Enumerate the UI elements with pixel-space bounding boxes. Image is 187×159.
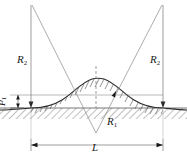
label-r2-left: R2	[17, 54, 27, 66]
label-r1: R1	[107, 116, 117, 128]
label-r2-right: R2	[150, 54, 160, 66]
label-l: L	[92, 142, 98, 153]
ground-hatching	[0, 108, 187, 119]
dimension-r1-arrow	[112, 91, 116, 98]
dimension-p1	[10, 95, 24, 108]
dimension-r2-left	[29, 5, 34, 108]
hill-profile-curve	[0, 78, 187, 110]
label-p1: P1	[0, 97, 8, 106]
terrain-profile-diagram: R2 R2 R1 P1 L	[0, 0, 187, 159]
dimension-r2-right	[161, 5, 166, 108]
diagram-canvas	[0, 0, 187, 159]
